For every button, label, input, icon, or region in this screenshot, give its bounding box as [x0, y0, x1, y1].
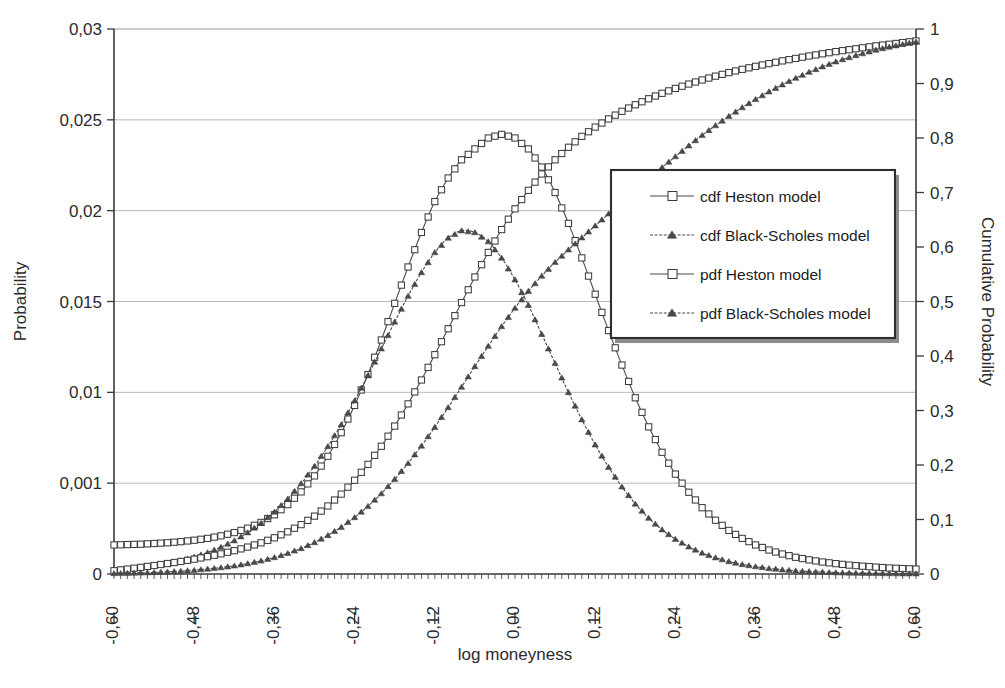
- square-marker: [565, 220, 571, 226]
- square-marker: [532, 155, 538, 161]
- triangle-marker: [285, 550, 291, 555]
- triangle-marker: [392, 319, 398, 324]
- triangle-marker: [345, 410, 351, 415]
- triangle-marker: [398, 306, 404, 311]
- square-marker: [873, 564, 879, 570]
- square-marker: [204, 554, 210, 560]
- square-marker: [626, 378, 632, 384]
- triangle-marker: [325, 532, 331, 537]
- square-marker: [599, 120, 605, 126]
- triangle-marker: [532, 281, 538, 286]
- triangle-marker: [244, 561, 250, 566]
- square-marker: [378, 443, 384, 449]
- legend-item-label: pdf Heston model: [700, 266, 822, 283]
- square-marker: [565, 144, 571, 150]
- triangle-marker: [505, 266, 511, 271]
- square-marker: [512, 135, 518, 141]
- square-marker: [412, 247, 418, 253]
- square-marker: [405, 264, 411, 270]
- square-marker: [793, 554, 799, 560]
- square-marker: [164, 560, 170, 566]
- square-marker: [599, 309, 605, 315]
- y-axis-right-tick-label: 0,5: [930, 293, 954, 312]
- triangle-marker: [579, 417, 585, 422]
- square-marker: [552, 189, 558, 195]
- triangle-marker: [666, 532, 672, 537]
- square-marker: [184, 538, 190, 544]
- square-marker: [672, 85, 678, 91]
- square-marker: [352, 477, 358, 483]
- square-marker: [398, 282, 404, 288]
- square-marker: [492, 238, 498, 244]
- square-marker: [679, 480, 685, 486]
- y-axis-right-tick-label: 0,7: [930, 184, 954, 203]
- square-marker: [706, 75, 712, 81]
- triangle-marker: [545, 346, 551, 351]
- triangle-marker: [826, 569, 832, 574]
- square-marker: [478, 140, 484, 146]
- square-marker: [699, 77, 705, 83]
- square-marker: [686, 81, 692, 87]
- triangle-marker: [518, 290, 524, 295]
- square-marker: [499, 226, 505, 232]
- triangle-marker: [492, 333, 498, 338]
- square-marker: [345, 416, 351, 422]
- triangle-marker: [585, 429, 591, 434]
- square-marker: [726, 527, 732, 533]
- square-marker: [639, 99, 645, 105]
- x-axis-tick-label: 0,12: [585, 606, 604, 639]
- square-marker: [158, 561, 164, 567]
- square-marker: [766, 61, 772, 67]
- triangle-marker: [338, 422, 344, 427]
- square-marker: [472, 146, 478, 152]
- x-axis-title: log moneyness: [458, 645, 572, 664]
- square-marker: [191, 556, 197, 562]
- triangle-marker: [204, 566, 210, 571]
- triangle-marker: [699, 550, 705, 555]
- triangle-marker: [211, 547, 217, 552]
- square-marker: [666, 88, 672, 94]
- square-marker: [846, 562, 852, 568]
- x-axis-tick-label: -0,60: [103, 606, 122, 645]
- triangle-marker: [238, 534, 244, 539]
- square-marker: [712, 517, 718, 523]
- square-marker: [532, 179, 538, 185]
- square-marker: [218, 533, 224, 539]
- triangle-marker: [686, 544, 692, 549]
- triangle-marker: [853, 570, 859, 575]
- square-marker: [773, 59, 779, 65]
- legend-square-marker: [668, 192, 677, 201]
- square-marker: [605, 116, 611, 122]
- square-marker: [345, 484, 351, 490]
- square-marker: [813, 558, 819, 564]
- x-axis-tick-label: 0,48: [825, 606, 844, 639]
- triangle-marker: [498, 324, 504, 329]
- legend-square-marker: [668, 270, 677, 279]
- square-marker: [719, 71, 725, 77]
- y-axis-right-tick-label: 0,2: [930, 456, 954, 475]
- square-marker: [305, 481, 311, 487]
- square-marker: [151, 540, 157, 546]
- square-marker: [432, 198, 438, 204]
- square-marker: [285, 502, 291, 508]
- square-marker: [305, 517, 311, 523]
- triangle-marker: [572, 403, 578, 408]
- triangle-marker: [766, 89, 772, 94]
- square-marker: [739, 535, 745, 541]
- triangle-marker: [452, 394, 458, 399]
- triangle-marker: [679, 540, 685, 545]
- square-marker: [552, 157, 558, 163]
- triangle-marker: [766, 565, 772, 570]
- triangle-marker: [686, 143, 692, 148]
- triangle-marker: [512, 305, 518, 310]
- square-marker: [425, 364, 431, 370]
- square-marker: [519, 196, 525, 202]
- triangle-marker: [679, 148, 685, 153]
- square-marker: [318, 463, 324, 469]
- square-marker: [184, 557, 190, 563]
- triangle-marker: [318, 536, 324, 541]
- square-marker: [632, 102, 638, 108]
- square-marker: [706, 511, 712, 517]
- triangle-marker: [398, 468, 404, 473]
- square-marker: [392, 423, 398, 429]
